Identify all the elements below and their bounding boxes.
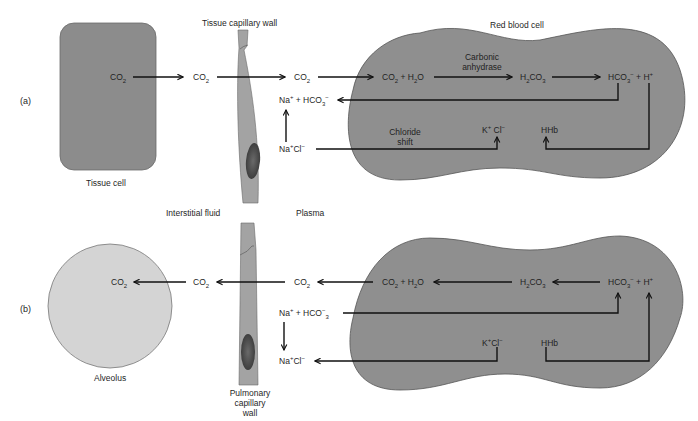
- tissue-cell-co2: CO2: [110, 72, 126, 82]
- formula-part: + HCO: [293, 95, 322, 105]
- formula-part: Na: [279, 308, 290, 318]
- alveolus: [48, 244, 172, 368]
- plasma-na-hco3-b: Na+ + HCO−3: [279, 308, 329, 318]
- formula-part: + H: [398, 72, 414, 82]
- label-line: Carbonic: [452, 52, 512, 62]
- formula-sub: 3: [542, 283, 545, 289]
- rbc-kcl-a: K+ Cl−: [482, 125, 505, 135]
- formula-part: HCO: [608, 72, 627, 82]
- formula-part: + H: [634, 277, 650, 287]
- formula-part: O: [417, 72, 424, 82]
- formula-part: + H: [398, 277, 414, 287]
- co2-transport-diagram: [0, 0, 698, 421]
- panel-label-b: (b): [20, 304, 31, 314]
- formula-part: Cl: [491, 338, 499, 348]
- alveolus-co2: CO2: [111, 277, 127, 287]
- tissue-capillary-wall: [238, 30, 259, 203]
- formula-part: CO: [529, 277, 542, 287]
- formula-sub: 2: [124, 283, 127, 289]
- chloride-shift-label: Chlorideshift: [380, 127, 430, 147]
- formula-part: CO: [382, 72, 395, 82]
- formula-part: O: [417, 277, 424, 287]
- formula-base: CO: [193, 277, 206, 287]
- label-line: capillary: [222, 398, 278, 408]
- carbonic-anhydrase-label: Carbonicanhydrase: [452, 52, 512, 72]
- rbc-hco3-h-b: HCO3− + H+: [608, 277, 653, 287]
- panel-label-a: (a): [20, 96, 31, 106]
- capillary-nucleus-b: [241, 334, 255, 370]
- plasma-na-hco3-a: Na+ + HCO3−: [279, 95, 329, 105]
- formula-sub: 3: [542, 78, 545, 84]
- label-line: Chloride: [380, 127, 430, 137]
- formula-part: CO: [382, 277, 395, 287]
- formula-part: Na: [279, 356, 290, 366]
- formula-base: CO: [111, 277, 124, 287]
- interstitial-fluid-label: Interstitial fluid: [166, 208, 220, 218]
- formula-base: CO: [110, 72, 123, 82]
- interstitial-co2-a: CO2: [193, 72, 209, 82]
- rbc-h2co3-a: H2CO3: [520, 72, 546, 82]
- plasma-co2-b: CO2: [294, 277, 310, 287]
- formula-sub: 2: [206, 78, 209, 84]
- rbc-hhb-b: HHb: [541, 338, 558, 348]
- rbc-kcl-b: K+Cl−: [482, 338, 503, 348]
- plasma-co2-a: CO2: [294, 72, 310, 82]
- formula-sup: −: [301, 355, 305, 361]
- formula-sub: 3: [627, 283, 630, 289]
- formula-sup: +: [650, 71, 654, 77]
- rbc-hhb-a: HHb: [541, 125, 558, 135]
- tissue-cell: [60, 23, 156, 170]
- plasma-nacl-a: Na+Cl−: [279, 144, 305, 154]
- formula-sup: −: [499, 337, 503, 343]
- label-line: Pulmonary: [222, 388, 278, 398]
- formula-part: Na: [279, 144, 290, 154]
- tissue-capillary-wall-label: Tissue capillary wall: [202, 18, 277, 28]
- formula-sup: −: [325, 94, 329, 100]
- formula-sub: 2: [206, 283, 209, 289]
- plasma-nacl-b: Na+Cl−: [279, 356, 305, 366]
- formula-part: Cl: [491, 125, 501, 135]
- formula-sup: −: [502, 124, 506, 130]
- formula-sub: 2: [123, 78, 126, 84]
- formula-sub: 2: [307, 283, 310, 289]
- tissue-cell-label: Tissue cell: [86, 178, 126, 188]
- rbc-hco3-h-a: HCO3− + H+: [608, 72, 653, 82]
- plasma-label: Plasma: [296, 208, 324, 218]
- formula-part: HCO: [608, 277, 627, 287]
- formula-sup: +: [650, 276, 654, 282]
- formula-sub: 3: [627, 78, 630, 84]
- formula-part: CO: [529, 72, 542, 82]
- rbc-h2co3-b: H2CO3: [520, 277, 546, 287]
- label-line: shift: [380, 137, 430, 147]
- red-blood-cell-label: Red blood cell: [490, 20, 544, 30]
- red-blood-cell-a: [348, 28, 685, 180]
- label-line: wall: [222, 408, 278, 418]
- interstitial-co2-b: CO2: [193, 277, 209, 287]
- formula-sub: 3: [325, 314, 328, 320]
- formula-sub: 2: [307, 78, 310, 84]
- formula-part: + HCO: [293, 308, 322, 318]
- formula-sup: −: [301, 143, 305, 149]
- pulmonary-capillary-wall-label: Pulmonarycapillarywall: [222, 388, 278, 418]
- alveolus-label: Alveolus: [94, 373, 126, 383]
- formula-base: CO: [294, 277, 307, 287]
- formula-sub: 3: [322, 101, 325, 107]
- rbc-co2-h2o-b: CO2 + H2O: [382, 277, 424, 287]
- formula-part: + H: [634, 72, 650, 82]
- label-line: anhydrase: [452, 62, 512, 72]
- formula-base: CO: [193, 72, 206, 82]
- formula-part: Na: [279, 95, 290, 105]
- formula-sup: −: [322, 307, 326, 313]
- rbc-co2-h2o-a: CO2 + H2O: [382, 72, 424, 82]
- formula-base: CO: [294, 72, 307, 82]
